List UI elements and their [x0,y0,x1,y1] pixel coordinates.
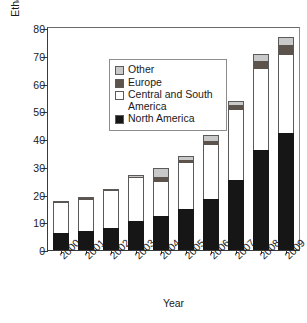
segment-central-south-america [178,163,194,209]
bar-2009 [278,37,294,250]
bar-2003 [128,175,144,250]
segment-central-south-america [128,178,144,220]
y-axis-tick-label: 80 [33,23,45,35]
y-axis-tick-label: 20 [33,190,45,202]
stacked-bar-chart-figure: Ethanol production (billion liters) 0102… [0,0,307,323]
segment-central-south-america [278,55,294,133]
x-axis-title: Year [47,297,300,309]
y-axis-title-container: Ethanol production (billion liters) [9,27,23,251]
segment-other [278,37,294,45]
y-axis-tick-label: 10 [33,217,45,229]
y-axis-tick-label: 0 [39,245,45,257]
segment-central-south-america [253,69,269,151]
segment-central-south-america [153,182,169,216]
segment-north-america [228,180,244,250]
bar-2008 [253,54,269,250]
y-axis-tick-label: 50 [33,106,45,118]
y-axis-title: Ethanol production (billion liters) [8,0,22,54]
y-axis-tick-label: 70 [33,51,45,63]
bar-series-container [49,28,299,250]
bar-2002 [103,189,119,250]
y-axis-tick-label: 60 [33,79,45,91]
segment-europe [278,45,294,55]
segment-central-south-america [53,203,69,232]
segment-north-america [278,133,294,250]
segment-central-south-america [203,145,219,199]
bar-2004 [153,168,169,250]
y-axis-tick-label: 40 [33,134,45,146]
bar-2006 [203,135,219,250]
segment-central-south-america [103,191,119,228]
segment-other [253,54,269,61]
y-axis-tick-label: 30 [33,162,45,174]
segment-north-america [253,150,269,250]
segment-central-south-america [228,110,244,180]
bar-2005 [178,156,194,250]
segment-other [153,168,169,177]
segment-europe [253,61,269,68]
x-axis-tick-labels: 2000200120022003200420052006200720082009 [49,253,299,293]
segment-central-south-america [78,200,94,231]
bar-2007 [228,101,244,250]
